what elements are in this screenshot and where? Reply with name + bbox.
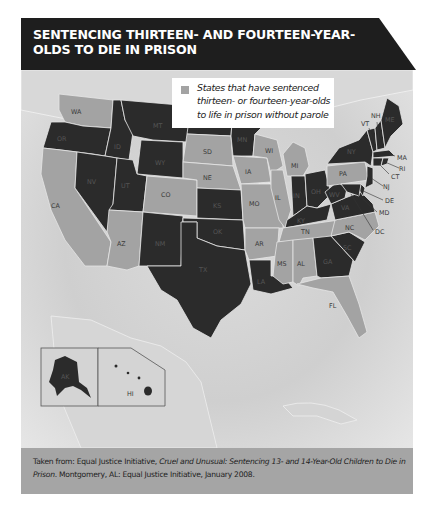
- label-ut: UT: [121, 182, 130, 190]
- legend-label: States that have sentenced thirteen- or …: [197, 81, 337, 121]
- label-me: ME: [385, 116, 395, 124]
- label-ne: NE: [203, 174, 212, 182]
- label-vt: VT: [361, 120, 369, 128]
- legend: States that have sentenced thirteen- or …: [172, 78, 334, 128]
- state-pa[interactable]: [327, 162, 369, 186]
- label-ms: MS: [277, 260, 287, 268]
- label-ri: RI: [399, 165, 405, 173]
- label-ia: IA: [245, 168, 252, 176]
- label-ks: KS: [213, 202, 221, 210]
- label-nc: NC: [345, 224, 355, 232]
- label-ma: MA: [397, 154, 408, 162]
- label-de: DE: [385, 197, 394, 205]
- label-wv: WV: [329, 191, 340, 199]
- states-layer: [41, 94, 403, 338]
- state-nm[interactable]: [139, 212, 183, 266]
- label-sd: SD: [203, 148, 212, 156]
- label-ca: CA: [51, 202, 60, 210]
- label-wa: WA: [71, 108, 82, 116]
- label-il: IL: [275, 194, 281, 202]
- label-nm: NM: [155, 240, 165, 248]
- label-tx: TX: [198, 266, 208, 274]
- label-ga: GA: [323, 258, 333, 266]
- label-pa: PA: [339, 170, 347, 178]
- caption-prefix: Taken from: Equal Justice Initiative,: [33, 457, 159, 466]
- state-ia[interactable]: [233, 156, 271, 184]
- label-wy: WY: [155, 159, 165, 167]
- label-mi: MI: [291, 162, 299, 170]
- label-ct: CT: [391, 173, 399, 181]
- cuba-land: [283, 403, 357, 424]
- label-ny: NY: [347, 148, 356, 156]
- label-dc: DC: [375, 228, 385, 236]
- label-al: AL: [297, 260, 305, 268]
- label-in: IN: [293, 192, 300, 200]
- label-nv: NV: [87, 178, 97, 186]
- label-ky: KY: [297, 217, 305, 225]
- label-tn: TN: [300, 228, 310, 236]
- label-az: AZ: [117, 240, 126, 248]
- label-nh: NH: [371, 112, 381, 120]
- label-ak: AK: [61, 373, 70, 381]
- label-fl: FL: [329, 302, 337, 310]
- label-hi: HI: [127, 390, 134, 398]
- label-mn: MN: [237, 136, 248, 144]
- label-nj: NJ: [383, 183, 390, 191]
- state-ma[interactable]: [373, 150, 395, 158]
- source-caption: Taken from: Equal Justice Initiative, Cr…: [21, 448, 413, 494]
- label-id: ID: [114, 143, 121, 151]
- label-or: OR: [57, 135, 67, 143]
- title-banner: SENTENCING THIRTEEN- AND FOURTEEN-YEAR-O…: [21, 18, 416, 70]
- caption-suffix: . Montgomery, AL: Equal Justice Initiati…: [55, 470, 255, 479]
- label-la: LA: [257, 278, 266, 286]
- label-mt: MT: [153, 122, 163, 130]
- label-mo: MO: [249, 200, 260, 208]
- label-sc: SC: [343, 244, 352, 252]
- label-md: MD: [379, 209, 390, 217]
- label-co: CO: [161, 191, 171, 199]
- label-wi: WI: [265, 147, 273, 155]
- caption-text: Taken from: Equal Justice Initiative, Cr…: [33, 455, 413, 481]
- legend-swatch: [181, 86, 189, 94]
- label-oh: OH: [311, 188, 321, 196]
- label-va: VA: [341, 204, 350, 212]
- label-ar: AR: [255, 240, 264, 248]
- label-ok: OK: [213, 228, 223, 236]
- page-title: SENTENCING THIRTEEN- AND FOURTEEN-YEAR-O…: [33, 27, 373, 57]
- state-mi[interactable]: [283, 142, 309, 176]
